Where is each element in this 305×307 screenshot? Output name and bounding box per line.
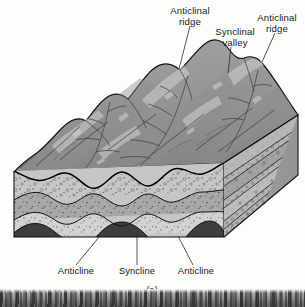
label-anticlinal-ridge-right-line1: Anticlinal	[257, 12, 296, 23]
label-anticlinal-ridge-right: Anticlinal ridge	[257, 12, 296, 34]
front-cross-section-face	[14, 163, 224, 237]
label-anticlinal-ridge-left: Anticlinal ridge	[170, 5, 209, 27]
label-synclinal-valley-line2: valley	[222, 37, 247, 48]
leader-anticlinal-ridge-right	[262, 33, 275, 62]
leader-anticline-left	[76, 236, 100, 265]
block-diagram-svg: Anticlinal ridge Synclinal valley Anticl…	[0, 0, 305, 307]
label-syncline-center: Syncline	[119, 265, 155, 276]
label-synclinal-valley-line1: Synclinal	[215, 26, 254, 37]
scanned-photo-edge-strip	[0, 289, 305, 307]
label-anticlinal-ridge-left-line1: Anticlinal	[170, 5, 209, 16]
label-anticlinal-ridge-left-line2: ridge	[179, 16, 201, 27]
leader-lines-bottom	[76, 234, 193, 265]
label-anticlinal-ridge-right-line2: ridge	[266, 23, 288, 34]
label-anticline-right: Anticline	[178, 265, 214, 276]
label-anticline-left: Anticline	[58, 265, 94, 276]
leader-anticline-right	[178, 236, 193, 265]
geology-block-diagram-figure: Anticlinal ridge Synclinal valley Anticl…	[0, 0, 305, 307]
